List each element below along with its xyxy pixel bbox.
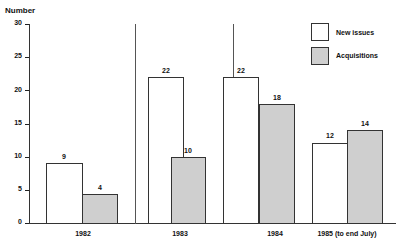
value-label: 18 xyxy=(262,94,292,101)
y-tick-label: 5 xyxy=(6,185,22,192)
group-separator xyxy=(135,24,136,224)
x-category-label: 1985 (to end July) xyxy=(292,230,402,237)
value-label: 22 xyxy=(226,67,256,74)
value-label: 22 xyxy=(151,67,181,74)
y-tick-label: 15 xyxy=(6,119,22,126)
value-label: 12 xyxy=(315,132,345,139)
bar-acquisitions-1983 xyxy=(171,157,206,224)
bar-acquisitions-1985 xyxy=(347,130,383,224)
value-label: 4 xyxy=(85,184,115,191)
y-tick-label: 10 xyxy=(6,152,22,159)
bar-new-issues-1982 xyxy=(46,163,83,224)
y-tick xyxy=(25,157,29,158)
x-category-label: 1982 xyxy=(28,230,138,237)
bar-acquisitions-1982 xyxy=(82,194,118,224)
y-axis-title: Number xyxy=(5,6,35,15)
y-tick-label: 30 xyxy=(6,19,22,26)
legend-label-acquisitions: Acquisitions xyxy=(336,52,378,59)
y-tick-label: 0 xyxy=(6,218,22,225)
y-tick xyxy=(25,24,29,25)
value-label: 10 xyxy=(173,147,203,154)
value-label: 14 xyxy=(350,120,380,127)
legend-label-new-issues: New issues xyxy=(336,29,374,36)
y-tick xyxy=(25,223,29,224)
y-tick xyxy=(25,190,29,191)
legend-swatch-new-issues xyxy=(311,23,329,41)
y-tick xyxy=(25,57,29,58)
y-tick xyxy=(25,124,29,125)
bar-new-issues-1985 xyxy=(312,143,348,224)
value-label: 9 xyxy=(49,153,79,160)
y-axis xyxy=(29,24,30,224)
y-tick-label: 20 xyxy=(6,86,22,93)
y-tick xyxy=(25,90,29,91)
x-category-label: 1983 xyxy=(125,230,235,237)
legend-swatch-acquisitions xyxy=(311,47,329,65)
bar-chart: Number 0 5 10 15 20 25 30 9 4 1982 22 10… xyxy=(0,0,402,249)
bar-acquisitions-1984 xyxy=(259,104,295,224)
y-tick-label: 25 xyxy=(6,52,22,59)
bar-new-issues-1984 xyxy=(223,77,259,224)
